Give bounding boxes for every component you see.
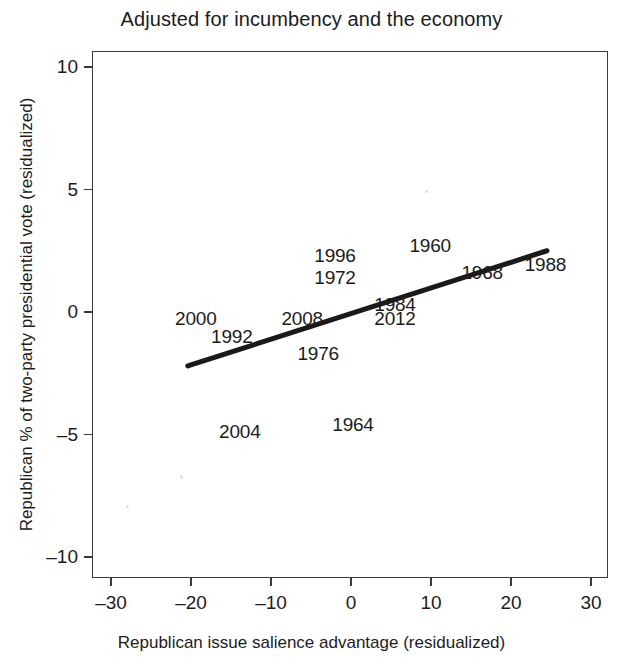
x-tick-mark: [190, 578, 191, 586]
y-tick-mark: [84, 556, 92, 557]
x-tick-mark: [590, 578, 591, 586]
scan-speckle: [180, 475, 183, 479]
scan-speckle: [126, 505, 129, 508]
chart-title: Adjusted for incumbency and the economy: [0, 8, 623, 31]
x-tick-mark: [430, 578, 431, 586]
x-tick-label: 20: [500, 592, 521, 614]
y-tick-mark: [84, 189, 92, 190]
x-tick-mark: [350, 578, 351, 586]
plot-area-frame: [92, 51, 608, 578]
y-tick-mark: [84, 66, 92, 67]
y-axis-title: Republican % of two-party presidential v…: [14, 51, 40, 578]
y-tick-mark: [84, 311, 92, 312]
x-tick-label: 10: [420, 592, 441, 614]
x-tick-label: 30: [580, 592, 601, 614]
x-tick-label: –10: [255, 592, 287, 614]
x-tick-mark: [510, 578, 511, 586]
x-tick-mark: [110, 578, 111, 586]
x-tick-label: –30: [95, 592, 127, 614]
x-tick-mark: [270, 578, 271, 586]
chart-figure: Adjusted for incumbency and the economy …: [0, 0, 623, 666]
y-tick-mark: [84, 434, 92, 435]
scan-speckle: [425, 190, 428, 193]
x-tick-label: –20: [175, 592, 207, 614]
x-axis-title: Republican issue salience advantage (res…: [0, 633, 623, 653]
x-tick-label: 0: [346, 592, 357, 614]
